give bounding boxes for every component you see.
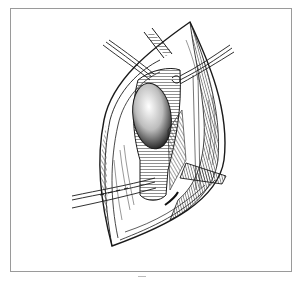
page-mark (138, 276, 146, 277)
surgical-illustration (0, 0, 303, 281)
